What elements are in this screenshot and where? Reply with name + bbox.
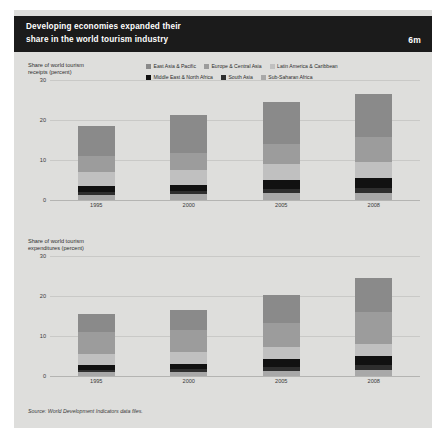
chart-receipts-bars	[50, 80, 420, 200]
bar-segment	[170, 153, 207, 170]
bar-segment	[263, 180, 300, 189]
bar-stack	[263, 102, 300, 200]
bar-segment	[355, 344, 392, 356]
chart-expenditures: Share of world tourism expenditures (per…	[14, 238, 432, 400]
bar-segment	[355, 356, 392, 365]
y-axis-tick-label: 10	[28, 333, 46, 339]
bar-segment	[355, 94, 392, 137]
bar-stack	[170, 310, 207, 376]
bar-segment	[170, 194, 207, 200]
y-axis-tick-label: 30	[28, 253, 46, 259]
bar-segment	[355, 370, 392, 376]
gridline	[50, 200, 420, 201]
y-axis-tick-label: 10	[28, 157, 46, 163]
bar-segment	[355, 162, 392, 178]
chart-expenditures-title-line2: expenditures (percent)	[28, 245, 148, 252]
bar-segment	[263, 359, 300, 367]
bar-segment	[355, 137, 392, 163]
y-axis-tick-label: 0	[28, 197, 46, 203]
bar-segment	[78, 172, 115, 186]
chart-receipts-title-line2: receipts (percent)	[28, 69, 148, 76]
bar-segment	[78, 156, 115, 172]
chart-receipts-title: Share of world tourism receipts (percent…	[28, 62, 148, 77]
page-title-line2: share in the world tourism industry	[26, 34, 326, 47]
page-title: Developing economies expanded their shar…	[26, 21, 326, 46]
bar-stack	[170, 115, 207, 200]
x-axis-tick-label: 2005	[263, 378, 300, 384]
chart-expenditures-plot: 0102030 1995200020052008	[28, 256, 420, 376]
header-bar: Developing economies expanded their shar…	[14, 16, 432, 52]
chart-expenditures-bars	[50, 256, 420, 376]
x-axis-tick-label: 2008	[355, 202, 392, 208]
chart-receipts-xaxis: 1995200020052008	[50, 202, 420, 212]
bar-segment	[263, 144, 300, 164]
bar-segment	[263, 347, 300, 359]
bar-stack	[355, 94, 392, 200]
chart-expenditures-xaxis: 1995200020052008	[50, 378, 420, 388]
chart-receipts-plot: 0102030 1995200020052008	[28, 80, 420, 200]
x-axis-tick-label: 2000	[170, 202, 207, 208]
bar-segment	[263, 323, 300, 347]
bar-segment	[355, 193, 392, 200]
page-title-line1: Developing economies expanded their	[26, 21, 326, 34]
y-axis-tick-label: 20	[28, 293, 46, 299]
x-axis-tick-label: 2000	[170, 378, 207, 384]
chart-expenditures-title: Share of world tourism expenditures (per…	[28, 238, 148, 253]
report-panel: Developing economies expanded their shar…	[14, 10, 432, 428]
bar-stack	[355, 278, 392, 376]
bar-segment	[263, 164, 300, 180]
bar-segment	[355, 178, 392, 188]
bar-segment	[170, 330, 207, 352]
bar-segment	[78, 332, 115, 354]
chart-expenditures-title-line1: Share of world tourism	[28, 238, 148, 245]
bar-segment	[170, 372, 207, 376]
bar-stack	[263, 295, 300, 376]
y-axis-tick-label: 20	[28, 117, 46, 123]
x-axis-tick-label: 2008	[355, 378, 392, 384]
chart-receipts: Share of world tourism receipts (percent…	[14, 62, 432, 224]
bar-segment	[170, 115, 207, 153]
chart-receipts-title-line1: Share of world tourism	[28, 62, 148, 69]
y-axis-tick-label: 30	[28, 77, 46, 83]
bar-segment	[263, 295, 300, 323]
page-root: Developing economies expanded their shar…	[0, 0, 446, 438]
bar-segment	[263, 193, 300, 200]
bar-segment	[78, 126, 115, 156]
gridline	[50, 376, 420, 377]
y-axis-tick-label: 0	[28, 373, 46, 379]
bar-segment	[170, 310, 207, 330]
x-axis-tick-label: 2005	[263, 202, 300, 208]
section-badge: 6m	[408, 35, 421, 45]
bar-segment	[263, 102, 300, 144]
x-axis-tick-label: 1995	[78, 378, 115, 384]
bar-segment	[170, 170, 207, 185]
bar-segment	[263, 371, 300, 376]
bar-stack	[78, 314, 115, 376]
bar-segment	[170, 352, 207, 364]
bar-stack	[78, 126, 115, 200]
bar-segment	[355, 278, 392, 312]
bar-segment	[355, 312, 392, 344]
bar-segment	[78, 195, 115, 200]
bar-segment	[78, 314, 115, 332]
bar-segment	[78, 372, 115, 376]
source-note: Source: World Development Indicators dat…	[28, 408, 143, 414]
x-axis-tick-label: 1995	[78, 202, 115, 208]
bar-segment	[78, 354, 115, 365]
